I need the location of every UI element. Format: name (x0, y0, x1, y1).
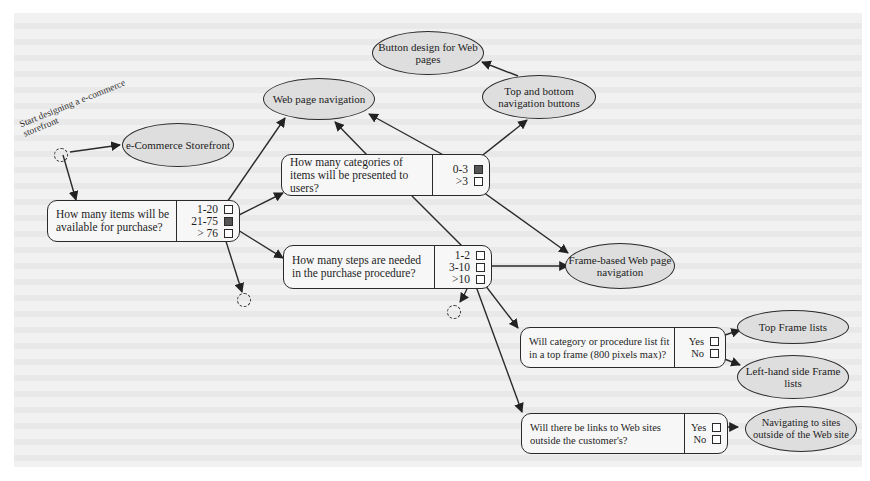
option-label: >10 (452, 273, 470, 286)
question-text: How many items will be available for pur… (48, 201, 177, 241)
option-label: >3 (456, 175, 468, 188)
question-links[interactable]: Will there be links to Web sites outside… (521, 413, 728, 454)
checkbox[interactable] (474, 177, 483, 186)
continuation-stub (237, 293, 251, 307)
checkbox[interactable] (710, 349, 719, 358)
checkbox[interactable] (476, 275, 485, 284)
node-button-design[interactable]: Button design for Web pages (372, 31, 484, 75)
node-web-page-navigation[interactable]: Web page navigation (263, 78, 375, 120)
option-0-3[interactable]: 0-3 (439, 163, 483, 175)
question-text: How many categories of items will be pre… (282, 155, 433, 195)
option-yes[interactable]: Yes (681, 336, 719, 348)
option-over-76[interactable]: > 76 (183, 227, 233, 239)
checkbox[interactable] (712, 435, 721, 444)
question-text: How many steps are needed in the purchas… (284, 246, 435, 288)
option-yes[interactable]: Yes (691, 422, 721, 434)
node-frame-based-navigation[interactable]: Frame-based Web page navigation (565, 243, 675, 289)
checkbox[interactable] (710, 337, 719, 346)
option-over-3[interactable]: >3 (439, 175, 483, 187)
checkbox[interactable] (712, 423, 721, 432)
continuation-stub (447, 305, 461, 319)
checkbox[interactable] (476, 263, 485, 272)
checkbox[interactable] (474, 165, 483, 174)
node-ecommerce-storefront[interactable]: e-Commerce Storefront (122, 123, 234, 167)
question-text: Will category or procedure list fit in a… (521, 328, 675, 367)
option-label: No (691, 347, 704, 360)
checkbox[interactable] (224, 217, 233, 226)
option-no[interactable]: No (691, 434, 721, 446)
checkbox[interactable] (224, 229, 233, 238)
question-text: Will there be links to Web sites outside… (522, 414, 685, 453)
option-label: No (693, 433, 706, 446)
node-left-frame-lists[interactable]: Left-hand side Frame lists (737, 355, 849, 399)
node-top-bottom-navigation[interactable]: Top and bottom navigation buttons (482, 75, 596, 119)
option-over-10[interactable]: >10 (441, 273, 485, 285)
node-top-frame-lists[interactable]: Top Frame lists (737, 310, 849, 344)
checkbox[interactable] (476, 251, 485, 260)
option-1-2[interactable]: 1-2 (441, 249, 485, 261)
option-3-10[interactable]: 3-10 (441, 261, 485, 273)
node-outside-sites[interactable]: Navigating to sites outside of the Web s… (745, 406, 857, 452)
question-steps[interactable]: How many steps are needed in the purchas… (283, 245, 492, 289)
checkbox[interactable] (224, 205, 233, 214)
question-items[interactable]: How many items will be available for pur… (47, 200, 240, 242)
question-categories[interactable]: How many categories of items will be pre… (281, 154, 490, 196)
option-21-75[interactable]: 21-75 (183, 215, 233, 227)
option-label: > 76 (197, 227, 218, 240)
question-top-frame[interactable]: Will category or procedure list fit in a… (520, 327, 726, 368)
option-no[interactable]: No (681, 348, 719, 360)
option-1-20[interactable]: 1-20 (183, 203, 233, 215)
start-point (54, 148, 68, 162)
